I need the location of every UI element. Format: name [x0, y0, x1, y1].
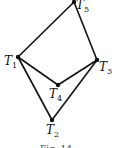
label-t2: T2 — [46, 123, 59, 139]
edge-t1-t2 — [18, 57, 52, 120]
edge-t1-t5 — [18, 2, 74, 57]
labels: T1 T2 T3 T4 T5 — [4, 0, 112, 139]
edge-t1-t4 — [18, 57, 58, 85]
node-t1 — [16, 55, 20, 59]
node-t2 — [50, 118, 54, 122]
figure-caption: Fig. 14 — [40, 144, 72, 148]
label-t3: T3 — [99, 60, 112, 76]
label-t4: T4 — [49, 87, 62, 103]
label-t1: T1 — [4, 54, 17, 70]
graph-diagram: T1 T2 T3 T4 T5 Fig. 14 — [0, 0, 115, 148]
edge-t4-t3 — [58, 60, 97, 85]
label-t5: T5 — [76, 0, 89, 14]
edge-t2-t3 — [52, 60, 97, 120]
